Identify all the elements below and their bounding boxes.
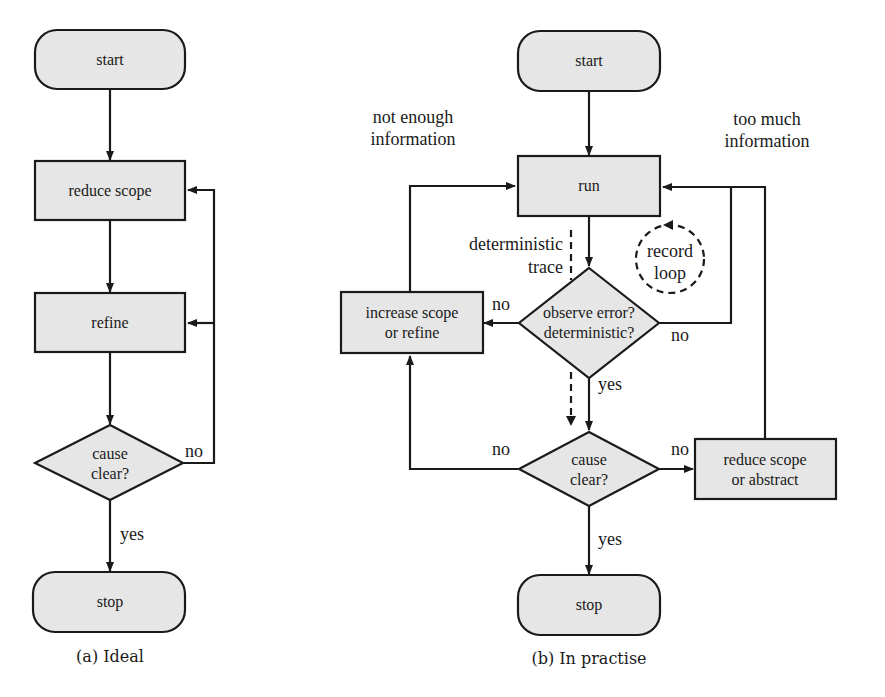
no-label: no	[185, 441, 203, 461]
cause-no-left-label: no	[492, 439, 510, 459]
increase-scope-box	[341, 292, 483, 353]
edge-no-to-reduce	[183, 190, 214, 463]
cause-clear-decision-b	[519, 432, 659, 506]
cause-no-right-label: no	[671, 439, 689, 459]
caption-ideal: (a) Ideal	[76, 647, 144, 666]
observe-yes-label: yes	[598, 374, 622, 394]
reduce-scope-label: reduce scope	[68, 182, 151, 200]
record-loop-arrow-icon	[663, 220, 673, 230]
observe-line2: deterministic?	[544, 324, 635, 341]
caption-in-practise: (b) In practise	[531, 649, 646, 668]
record-loop-line2: loop	[654, 263, 686, 283]
observe-decision	[519, 268, 659, 378]
reduce-line1: reduce scope	[723, 451, 806, 469]
det-trace-line1: deterministic	[469, 234, 563, 254]
diagram-ideal: start reduce scope refine cause clear? n…	[33, 30, 214, 666]
cause-clear-decision	[35, 425, 183, 500]
observe-no-right-label: no	[671, 325, 689, 345]
reduce-scope-abstract-box	[695, 439, 836, 499]
yes-label: yes	[120, 524, 144, 544]
increase-line1: increase scope	[366, 304, 459, 322]
increase-line2: or refine	[385, 324, 440, 341]
refine-label: refine	[91, 314, 128, 331]
observe-line1: observe error?	[543, 304, 635, 321]
det-trace-line2: trace	[528, 257, 563, 277]
run-label: run	[578, 177, 599, 194]
cause-clear-line1: cause	[92, 445, 128, 462]
dashed-arrow-head-icon	[566, 416, 576, 426]
record-loop-line1: record	[647, 241, 693, 261]
cause-yes-label: yes	[598, 529, 622, 549]
not-enough-line2: information	[371, 129, 456, 149]
start-label-b: start	[575, 52, 603, 69]
flowchart-figure: start reduce scope refine cause clear? n…	[0, 0, 885, 697]
stop-label: stop	[97, 593, 124, 611]
start-label: start	[96, 51, 124, 68]
cause-clear-b-line1: cause	[571, 451, 607, 468]
diagram-in-practise: start not enough information too much in…	[341, 31, 836, 668]
reduce-line2: or abstract	[731, 471, 799, 488]
too-much-line2: information	[725, 131, 810, 151]
not-enough-line1: not enough	[373, 107, 454, 127]
cause-clear-line2: clear?	[91, 465, 129, 482]
cause-clear-b-line2: clear?	[570, 471, 608, 488]
stop-label-b: stop	[576, 596, 603, 614]
edge-reduce-to-run	[731, 187, 765, 439]
too-much-line1: too much	[733, 109, 801, 129]
observe-no-left-label: no	[492, 294, 510, 314]
